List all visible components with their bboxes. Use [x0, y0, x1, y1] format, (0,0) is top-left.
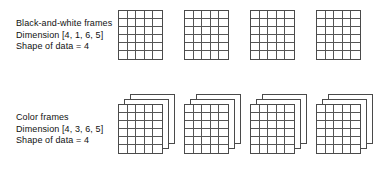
grid-cell: [268, 129, 277, 137]
grid-cell: [351, 19, 360, 27]
grid-cell: [260, 27, 269, 35]
grid-cell: [194, 19, 203, 27]
grid-cell: [285, 19, 294, 27]
grid-cell: [145, 19, 154, 27]
grid-cell: [145, 121, 154, 129]
grid-cell: [334, 51, 343, 59]
grid-cell: [317, 51, 326, 59]
grid-cell: [219, 129, 228, 137]
grid-cell: [145, 113, 154, 121]
grid-cell: [334, 121, 343, 129]
grid-cell: [194, 105, 203, 113]
grid-cell: [268, 51, 277, 59]
grid-cell: [136, 27, 145, 35]
grid-cell: [202, 51, 211, 59]
grid-cell: [219, 51, 228, 59]
grid-cell: [285, 129, 294, 137]
grid-cell: [119, 27, 128, 35]
grid-cell: [251, 137, 260, 145]
grid-cell: [343, 43, 352, 51]
grid-cell: [194, 121, 203, 129]
frame-stack: [184, 94, 241, 154]
grid-cell: [211, 35, 220, 43]
grid-cell: [185, 137, 194, 145]
grid-cell: [119, 51, 128, 59]
grid-cell: [194, 129, 203, 137]
grid-cell: [185, 27, 194, 35]
grid-cell: [202, 19, 211, 27]
grid-cell: [185, 105, 194, 113]
grid-cell: [119, 35, 128, 43]
grid-cell: [128, 113, 137, 121]
grid-cell: [260, 129, 269, 137]
grid-cell: [334, 113, 343, 121]
grid-cell: [185, 35, 194, 43]
grid-cell: [317, 19, 326, 27]
grid-cell: [351, 137, 360, 145]
grid-cell: [343, 19, 352, 27]
frame-channel-sheet-front: [118, 104, 163, 154]
grid-cell: [251, 105, 260, 113]
grid-cell: [277, 51, 286, 59]
grid-cell: [136, 105, 145, 113]
grid-cell: [260, 19, 269, 27]
grid-cell: [343, 121, 352, 129]
grid-cell: [251, 11, 260, 19]
grid-cell: [326, 137, 335, 145]
grid-cell: [277, 35, 286, 43]
grid-cell: [334, 43, 343, 51]
grid-cell: [136, 145, 145, 153]
grid-cell: [185, 11, 194, 19]
grid-cell: [268, 113, 277, 121]
grid-cell: [285, 137, 294, 145]
grid-cell: [268, 19, 277, 27]
frame-grid: [317, 105, 360, 153]
frame-grid: [119, 11, 162, 59]
grid-cell: [128, 51, 137, 59]
grid-cell: [277, 43, 286, 51]
grid-cell: [136, 19, 145, 27]
grid-cell: [145, 27, 154, 35]
grid-cell: [119, 43, 128, 51]
grid-cell: [334, 105, 343, 113]
grid-cell: [334, 19, 343, 27]
grid-cell: [326, 129, 335, 137]
grid-cell: [153, 35, 162, 43]
grid-cell: [128, 35, 137, 43]
grid-cell: [202, 35, 211, 43]
grid-cell: [251, 27, 260, 35]
grid-cell: [145, 51, 154, 59]
grid-cell: [219, 11, 228, 19]
grid-cell: [326, 43, 335, 51]
grid-cell: [194, 43, 203, 51]
grid-cell: [185, 145, 194, 153]
grid-cell: [277, 145, 286, 153]
grid-cell: [251, 129, 260, 137]
grid-cell: [260, 11, 269, 19]
grid-cell: [185, 19, 194, 27]
grid-cell: [251, 19, 260, 27]
grid-cell: [185, 129, 194, 137]
grid-cell: [285, 35, 294, 43]
grid-cell: [268, 35, 277, 43]
grid-cell: [185, 51, 194, 59]
grid-cell: [128, 43, 137, 51]
grid-cell: [194, 51, 203, 59]
grid-cell: [351, 51, 360, 59]
grid-cell: [334, 27, 343, 35]
grid-cell: [119, 145, 128, 153]
grid-cell: [351, 113, 360, 121]
grid-cell: [317, 43, 326, 51]
grid-cell: [317, 11, 326, 19]
grid-cell: [211, 129, 220, 137]
frame-stack: [316, 10, 373, 70]
frame-grid: [185, 11, 228, 59]
grid-cell: [260, 113, 269, 121]
grid-cell: [145, 35, 154, 43]
grid-cell: [219, 35, 228, 43]
frame-stack: [118, 10, 175, 70]
grid-cell: [136, 113, 145, 121]
grid-cell: [202, 129, 211, 137]
grid-cell: [317, 137, 326, 145]
frame-grid: [119, 105, 162, 153]
